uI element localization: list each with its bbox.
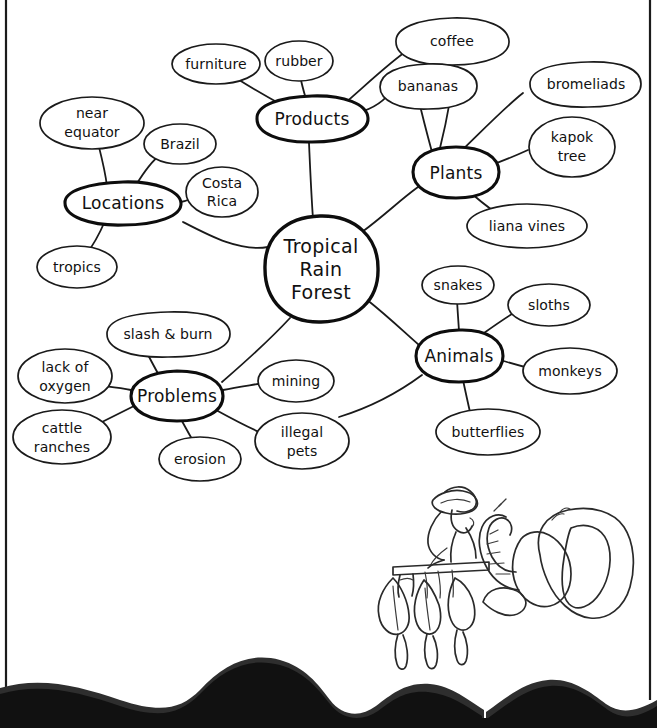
edge-problems-mining — [223, 383, 263, 390]
node-kapok-tree-label-line1: kapok — [551, 129, 594, 145]
node-coffee-label: coffee — [430, 33, 474, 49]
node-center-label-line3: Forest — [291, 281, 351, 303]
node-plants[interactable]: Plants — [413, 147, 499, 198]
node-rubber-label: rubber — [275, 53, 323, 69]
illustration-leaf-7 — [483, 588, 526, 615]
node-near-equator-label-line1: near — [76, 105, 108, 121]
node-costa-rica-label-line2: Rica — [207, 193, 237, 209]
node-furniture[interactable]: furniture — [172, 44, 260, 84]
node-near-equator[interactable]: near equator — [40, 97, 144, 149]
worksheet-page: Tropical Rain Forest Locations Products … — [0, 0, 657, 728]
node-animals[interactable]: Animals — [416, 330, 503, 382]
node-rubber[interactable]: rubber — [265, 41, 333, 81]
node-slash-burn-label: slash & burn — [123, 326, 212, 342]
illustration-desk-leg-right — [412, 574, 414, 596]
illustration-torso — [451, 532, 456, 562]
node-products-label: Products — [274, 109, 349, 129]
node-kapok-tree[interactable]: kapok tree — [529, 117, 615, 177]
illustration-desk-top — [393, 562, 489, 575]
edge-center-locations — [183, 222, 268, 248]
illustration-trunk-ridge-4 — [490, 563, 504, 564]
node-near-equator-label-line2: equator — [64, 124, 120, 140]
illustration-motion-mark-2 — [494, 504, 501, 511]
node-butterflies-label: butterflies — [452, 424, 525, 440]
node-costa-rica-label-line1: Costa — [202, 175, 242, 191]
node-illegal-pets-label-line1: illegal — [281, 424, 323, 440]
node-center-label-line1: Tropical — [283, 235, 359, 257]
node-kapok-tree-bubble — [529, 117, 615, 177]
illustration-trunk-ridge-2 — [487, 541, 498, 544]
node-liana-vines-label: liana vines — [489, 218, 565, 234]
node-center-label-line2: Rain — [300, 258, 343, 280]
node-locations[interactable]: Locations — [65, 182, 181, 225]
illustration-hat-band — [441, 499, 470, 503]
illustration-leaf-5 — [448, 578, 475, 630]
node-monkeys[interactable]: monkeys — [523, 348, 617, 394]
node-erosion[interactable]: erosion — [159, 437, 241, 481]
node-products[interactable]: Products — [257, 96, 368, 142]
node-mining[interactable]: mining — [258, 360, 334, 402]
node-coffee[interactable]: coffee — [396, 18, 509, 65]
node-monkeys-label: monkeys — [538, 363, 602, 379]
node-lack-of-oxygen-label-line1: lack of — [42, 359, 90, 375]
node-lack-of-oxygen-bubble — [18, 349, 112, 403]
illustration-leaf-1 — [378, 578, 409, 634]
edge-animals-illegal-pets — [339, 375, 422, 417]
bottom-wave-baseline — [0, 718, 657, 728]
node-slash-burn[interactable]: slash & burn — [107, 312, 230, 357]
node-illegal-pets[interactable]: illegal pets — [255, 413, 349, 469]
illustration-trunk-ridge-1 — [490, 530, 498, 534]
node-furniture-label: furniture — [185, 56, 246, 72]
illustration-desk-brace — [400, 579, 413, 581]
node-costa-rica[interactable]: Costa Rica — [186, 167, 258, 217]
illustration-leaf-vein-1 — [393, 586, 398, 630]
node-liana-vines[interactable]: liana vines — [467, 204, 587, 248]
node-brazil[interactable]: Brazil — [144, 124, 216, 164]
node-lack-of-oxygen[interactable]: lack of oxygen — [18, 349, 112, 403]
node-butterflies[interactable]: butterflies — [436, 409, 540, 455]
node-sloths[interactable]: sloths — [508, 284, 590, 326]
illustration-desk-front2 — [438, 571, 440, 598]
node-snakes-label: snakes — [434, 277, 483, 293]
node-cattle-ranches[interactable]: cattle ranches — [13, 410, 111, 464]
illustration-leaf-2 — [395, 634, 407, 669]
node-snakes[interactable]: snakes — [422, 266, 494, 304]
bottom-wave-decoration — [0, 658, 657, 728]
node-bananas-label: bananas — [398, 78, 458, 94]
node-kapok-tree-label-line2: tree — [558, 148, 587, 164]
edge-center-animals — [366, 299, 419, 345]
concept-map-canvas: Tropical Rain Forest Locations Products … — [0, 0, 657, 728]
illustration-elephant-ear — [562, 526, 610, 608]
node-tropics[interactable]: tropics — [37, 246, 117, 288]
node-cattle-ranches-bubble — [13, 410, 111, 464]
edge-center-products — [309, 143, 313, 219]
node-illegal-pets-label-line2: pets — [287, 443, 318, 459]
node-locations-label: Locations — [82, 193, 165, 213]
node-tropics-label: tropics — [53, 259, 101, 275]
illustration-leaf-6 — [455, 630, 468, 665]
node-bananas[interactable]: bananas — [380, 64, 477, 109]
illustration-leaf-4 — [425, 634, 438, 669]
illustration-sleeve — [430, 548, 447, 566]
edge-center-plants — [362, 187, 418, 232]
illustration-hat-brim — [432, 490, 477, 514]
node-bromeliads-label: bromeliads — [547, 76, 626, 92]
node-erosion-label: erosion — [174, 451, 226, 467]
node-bromeliads[interactable]: bromeliads — [530, 62, 641, 107]
node-animals-label: Animals — [424, 346, 493, 366]
node-mining-label: mining — [272, 373, 321, 389]
illustration-person-at-desk-with-elephant — [378, 487, 633, 669]
node-cattle-ranches-label-line1: cattle — [42, 420, 82, 436]
node-problems[interactable]: Problems — [131, 371, 223, 421]
node-cattle-ranches-label-line2: ranches — [34, 439, 90, 455]
node-plants-label: Plants — [430, 163, 483, 183]
illustration-trunk-ridge-3 — [487, 552, 500, 554]
node-brazil-label: Brazil — [160, 136, 200, 152]
node-lack-of-oxygen-label-line2: oxygen — [39, 378, 91, 394]
node-sloths-label: sloths — [528, 297, 570, 313]
node-illegal-pets-bubble — [255, 413, 349, 469]
node-center[interactable]: Tropical Rain Forest — [265, 216, 378, 322]
node-problems-label: Problems — [137, 386, 217, 406]
